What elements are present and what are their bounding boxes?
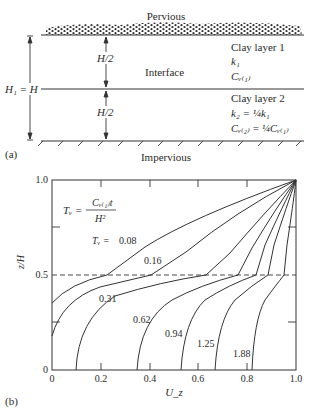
diagram-a: Pervious H₁ = H H/2 bbox=[4, 10, 304, 163]
svg-text:Tᵥ =: Tᵥ = bbox=[92, 235, 110, 246]
chart-b: 0 0.2 0.4 0.6 0.8 1.0 0 0.5 1.0 U_z z/H … bbox=[5, 174, 302, 408]
label-1.88: 1.88 bbox=[233, 348, 251, 359]
impervious-label: Impervious bbox=[141, 151, 191, 163]
svg-text:0.5: 0.5 bbox=[36, 269, 49, 280]
svg-text:1.0: 1.0 bbox=[290, 373, 303, 384]
svg-text:0.4: 0.4 bbox=[144, 373, 157, 384]
layer2-cv: Cᵥ₍₂₎ = ¼Cᵥ₍₁₎ bbox=[231, 123, 289, 134]
label-1.25: 1.25 bbox=[197, 338, 215, 349]
curve-tv-0.08 bbox=[52, 180, 296, 303]
figure-root: Pervious H₁ = H H/2 bbox=[0, 0, 315, 411]
label-0.08: 0.08 bbox=[119, 235, 137, 246]
curve-tv-1.88 bbox=[252, 180, 296, 370]
pervious-gravel-layer bbox=[46, 22, 302, 35]
curve-labels: Tᵥ = 0.08 0.16 0.31 0.62 0.94 1.25 1.88 bbox=[92, 235, 251, 359]
layer1-k: k₁ bbox=[231, 55, 240, 67]
svg-text:0: 0 bbox=[50, 373, 55, 384]
svg-text:H²: H² bbox=[94, 213, 106, 224]
svg-text:1.0: 1.0 bbox=[36, 174, 49, 185]
layer1-cv: Cᵥ₍₁₎ bbox=[231, 70, 251, 82]
y-tick-labels: 0 0.5 1.0 bbox=[36, 174, 49, 375]
svg-text:Cᵥ₍₁₎t: Cᵥ₍₁₎t bbox=[92, 197, 113, 208]
figure-b-label: (b) bbox=[5, 395, 18, 408]
label-0.94: 0.94 bbox=[165, 328, 183, 339]
svg-text:Tᵥ =: Tᵥ = bbox=[63, 204, 82, 216]
svg-text:0.8: 0.8 bbox=[241, 373, 254, 384]
impervious-hatching bbox=[38, 141, 301, 146]
svg-text:0.2: 0.2 bbox=[95, 373, 108, 384]
upper-half-label: H/2 bbox=[96, 52, 114, 64]
svg-text:0: 0 bbox=[43, 364, 48, 375]
lower-half-label: H/2 bbox=[96, 106, 114, 118]
layer2-k: k₂ = ¼k₁ bbox=[231, 107, 270, 119]
label-0.16: 0.16 bbox=[144, 255, 162, 266]
layer2-name: Clay layer 2 bbox=[231, 92, 285, 104]
figure-a-label: (a) bbox=[5, 148, 18, 161]
label-0.31: 0.31 bbox=[99, 293, 117, 304]
label-0.62: 0.62 bbox=[133, 314, 151, 325]
x-axis-label: U_z bbox=[165, 386, 183, 398]
svg-text:0.6: 0.6 bbox=[192, 373, 205, 384]
total-thickness-label: H₁ = H bbox=[4, 83, 39, 95]
x-tick-labels: 0 0.2 0.4 0.6 0.8 1.0 bbox=[50, 373, 303, 384]
tv-formula: Tᵥ = Cᵥ₍₁₎t H² bbox=[63, 197, 116, 224]
interface-label: Interface bbox=[145, 66, 184, 78]
pervious-label: Pervious bbox=[147, 10, 186, 22]
layer1-name: Clay layer 1 bbox=[231, 41, 285, 53]
y-axis-label: z/H bbox=[15, 254, 26, 270]
